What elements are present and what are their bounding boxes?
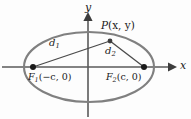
x-axis-label: x (180, 60, 186, 71)
segment-d1 (33, 41, 110, 67)
segment-d2-label: d2 (105, 46, 116, 58)
point-p-label: P(x, y) (101, 20, 135, 31)
left-focus-dot (30, 64, 36, 70)
left-focus-name: F (28, 71, 35, 82)
point-p-coords: (x, y) (108, 19, 135, 31)
right-focus-dot (141, 64, 147, 70)
y-axis-label: y (85, 2, 91, 13)
segment-d1-label: d1 (49, 38, 60, 50)
segment-d1-subscript: 1 (55, 42, 59, 50)
point-p-dot (108, 39, 113, 44)
segment-d2-subscript: 2 (111, 50, 115, 58)
right-focus-name: F (106, 71, 113, 82)
right-focus-coords: (c, 0) (117, 71, 142, 82)
ellipse-focal-diagram: y x P(x, y) F1(−c, 0) F2(c, 0) d1 d2 (0, 0, 191, 119)
figure-canvas (0, 0, 191, 119)
x-axis-arrowhead-icon (168, 62, 177, 71)
right-focus-label: F2(c, 0) (106, 72, 142, 83)
left-focus-label: F1(−c, 0) (28, 72, 71, 83)
left-focus-coords: (−c, 0) (39, 71, 72, 82)
